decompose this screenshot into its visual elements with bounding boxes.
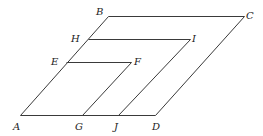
- segment-IJ: [119, 40, 191, 116]
- label-point-A: A: [13, 122, 20, 132]
- label-point-I: I: [192, 34, 196, 44]
- segment-CD: [156, 17, 245, 116]
- label-point-F: F: [134, 57, 141, 67]
- diagram-lines: [0, 0, 263, 136]
- label-point-D: D: [152, 122, 160, 132]
- segment-AB: [21, 17, 109, 116]
- label-point-J: J: [114, 122, 118, 132]
- label-point-B: B: [96, 7, 103, 17]
- label-point-E: E: [51, 57, 58, 67]
- segment-FG: [83, 63, 132, 116]
- label-point-G: G: [75, 122, 83, 132]
- label-point-H: H: [71, 34, 80, 44]
- geometry-diagram: A B C D E F G H I J: [0, 0, 263, 136]
- label-point-C: C: [246, 11, 254, 21]
